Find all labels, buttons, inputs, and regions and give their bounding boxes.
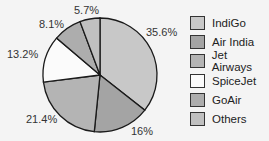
slice-label-others: 5.7% [74,4,99,16]
legend-label: SpiceJet [212,75,256,87]
legend-label: Jet Airways [212,49,269,73]
legend-label: Others [212,113,247,125]
legend-swatch [190,93,205,107]
slice-label-air-india: 16% [131,125,153,137]
legend-swatch [190,35,205,49]
legend-label: GoAir [212,94,241,106]
slice-label-jet-airways: 21.4% [26,113,57,125]
legend-item-spicejet: SpiceJet [190,71,269,90]
chart-legend: IndiGo Air India Jet Airways SpiceJet Go… [190,13,269,129]
legend-item-others: Others [190,109,269,128]
legend-swatch [190,16,205,30]
legend-swatch [190,112,205,126]
slice-label-spicejet: 13.2% [7,48,38,60]
slice-label-goair: 8.1% [39,18,64,30]
legend-label: IndiGo [212,17,246,29]
legend-swatch [190,54,205,68]
legend-item-goair: GoAir [190,90,269,109]
legend-item-indigo: IndiGo [190,13,269,32]
legend-label: Air India [212,36,254,48]
legend-item-jet-airways: Jet Airways [190,52,269,71]
slice-label-indigo: 35.6% [146,26,177,38]
legend-swatch [190,74,205,88]
